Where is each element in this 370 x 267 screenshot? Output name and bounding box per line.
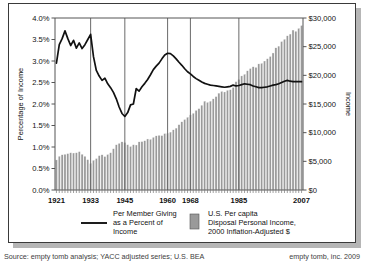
- bar: [226, 90, 228, 190]
- y-axis-right-title: Income: [344, 92, 353, 116]
- bar: [187, 117, 189, 190]
- y-tick-label-right: $20,000: [309, 71, 336, 80]
- bar: [149, 139, 151, 190]
- bar: [244, 74, 246, 190]
- bar: [235, 82, 237, 190]
- bar: [221, 91, 223, 190]
- bar: [75, 153, 77, 190]
- legend-line-label-3: Income: [113, 227, 137, 236]
- bar: [249, 68, 251, 190]
- y-tick-label-left: 2.0%: [32, 100, 50, 109]
- bar: [201, 105, 203, 190]
- legend: Per Member Givingas a Percent ofIncomeU.…: [81, 209, 296, 236]
- bar: [158, 135, 160, 190]
- bar: [104, 156, 106, 190]
- bar: [129, 146, 131, 190]
- figure-root: 0.0%0.5%1.0%1.5%2.0%2.5%3.0%3.5%4.0%$0$5…: [0, 0, 370, 267]
- bar: [58, 156, 60, 190]
- bar: [172, 130, 174, 190]
- y-tick-label-left: 1.0%: [32, 143, 50, 152]
- y-tick-label-right: $0: [309, 186, 317, 195]
- bar: [224, 92, 226, 190]
- figure-footer: Source: empty tomb analysis; YACC adjust…: [4, 252, 366, 264]
- bar: [121, 142, 123, 190]
- bar: [295, 31, 297, 190]
- bar: [135, 145, 137, 190]
- legend-line-label-1: Per Member Giving: [113, 209, 177, 218]
- y-tick-label-left: 4.0%: [32, 14, 50, 23]
- bar: [152, 137, 154, 190]
- bar: [292, 30, 294, 190]
- y-axis-left-title: Percentage of Income: [16, 68, 25, 140]
- y-tick-label-right: $25,000: [309, 42, 336, 51]
- x-tick-label: 2007: [293, 196, 310, 205]
- bar: [141, 142, 143, 190]
- bar: [278, 46, 280, 190]
- bar: [206, 102, 208, 190]
- bar: [92, 160, 94, 190]
- bar: [95, 158, 97, 190]
- source-note: Source: empty tomb analysis; YACC adjust…: [4, 252, 204, 261]
- bar: [81, 154, 83, 190]
- bar: [283, 39, 285, 190]
- bar: [272, 53, 274, 190]
- bar: [301, 25, 303, 190]
- x-axis-labels: 1921193319451960196819852007: [48, 196, 310, 205]
- bar: [87, 160, 89, 190]
- bar: [212, 99, 214, 190]
- bar: [161, 136, 163, 190]
- x-tick-label: 1921: [48, 196, 66, 205]
- bar: [209, 101, 211, 190]
- bar: [110, 153, 112, 190]
- bar: [84, 156, 86, 190]
- bar: [115, 145, 117, 190]
- legend-bar-label-2: Disposal Personal Income,: [208, 218, 296, 227]
- bar: [132, 145, 134, 190]
- chart-card: 0.0%0.5%1.0%1.5%2.0%2.5%3.0%3.5%4.0%$0$5…: [8, 3, 356, 243]
- bar: [198, 109, 200, 190]
- bar: [261, 63, 263, 190]
- bar: [229, 90, 231, 190]
- bar: [232, 87, 234, 190]
- y-axis-left-ticks: 0.0%0.5%1.0%1.5%2.0%2.5%3.0%3.5%4.0%: [32, 14, 55, 195]
- y-tick-label-left: 2.5%: [32, 78, 50, 87]
- y-tick-label-right: $30,000: [309, 14, 336, 23]
- bar: [192, 113, 194, 190]
- bar: [78, 152, 80, 190]
- bar: [138, 142, 140, 190]
- legend-bar-label-3: 2000 Inflation-Adjusted $: [208, 227, 290, 236]
- x-tick-label: 1960: [159, 196, 176, 205]
- bar: [204, 101, 206, 190]
- bar: [169, 132, 171, 190]
- bar: [289, 34, 291, 190]
- bar: [218, 93, 220, 190]
- bar: [98, 156, 100, 190]
- bar: [181, 122, 183, 190]
- y-tick-label-right: $10,000: [309, 128, 336, 137]
- bar: [246, 71, 248, 190]
- bar: [263, 61, 265, 190]
- bar: [64, 154, 66, 190]
- legend-line-label-2: as a Percent of: [113, 218, 164, 227]
- bar: [67, 154, 69, 190]
- x-tick-label: 1968: [182, 196, 199, 205]
- bar: [155, 136, 157, 190]
- legend-bar-label-1: U.S. Per capita: [208, 209, 259, 218]
- x-axis-ticks: [56, 190, 301, 193]
- bar: [144, 141, 146, 190]
- bar: [55, 160, 57, 190]
- bar: [241, 76, 243, 190]
- bar: [101, 155, 103, 190]
- credit-note: empty tomb, inc. 2009: [289, 252, 366, 261]
- y-tick-label-left: 3.5%: [32, 35, 50, 44]
- x-tick-label: 1985: [230, 196, 248, 205]
- bar: [286, 36, 288, 190]
- bar: [298, 28, 300, 190]
- bar: [281, 42, 283, 190]
- bar: [127, 145, 129, 190]
- bar: [72, 153, 74, 190]
- bar: [112, 149, 114, 190]
- x-tick-label: 1945: [116, 196, 134, 205]
- legend-bar-swatch: [190, 214, 199, 229]
- bar: [269, 56, 271, 190]
